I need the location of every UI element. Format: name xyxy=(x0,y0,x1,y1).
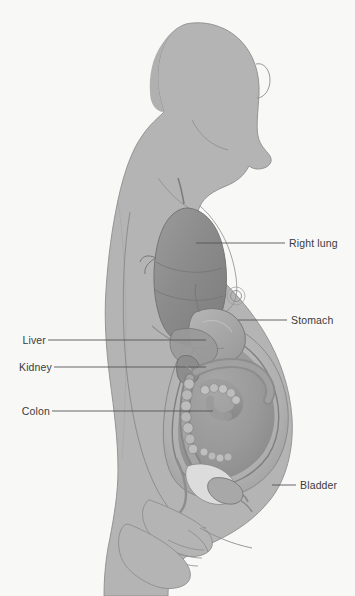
label-colon: Colon xyxy=(2,406,50,417)
label-right-lung: Right lung xyxy=(289,238,338,249)
label-kidney: Kidney xyxy=(2,362,52,373)
illustration-page: Right lung Stomach Bladder Liver Kidney … xyxy=(0,0,355,596)
label-stomach: Stomach xyxy=(291,315,334,326)
label-bladder: Bladder xyxy=(300,480,337,491)
label-liver: Liver xyxy=(4,335,46,346)
anatomy-illustration xyxy=(0,0,355,596)
